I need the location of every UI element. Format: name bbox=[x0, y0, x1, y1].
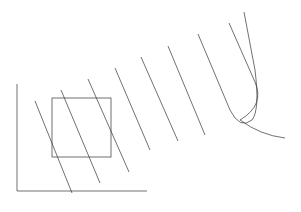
contour-230 bbox=[88, 79, 129, 172]
diagram-canvas bbox=[0, 0, 301, 212]
contour-240 bbox=[115, 68, 150, 150]
survey-rectangle bbox=[52, 98, 111, 157]
contour-250 bbox=[141, 57, 178, 141]
contour-210 bbox=[35, 101, 72, 193]
contour-270-inner bbox=[198, 12, 257, 123]
contour-220 bbox=[61, 90, 100, 183]
contour-260 bbox=[168, 46, 205, 135]
